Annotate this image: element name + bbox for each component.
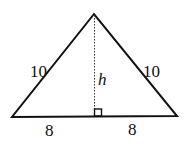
- left-side-label: 10: [30, 62, 47, 81]
- left-base-label: 8: [45, 121, 54, 140]
- right-base-label: 8: [128, 120, 137, 139]
- right-angle-marker: [95, 109, 102, 116]
- right-side-label: 10: [143, 62, 160, 81]
- height-label: h: [98, 70, 107, 89]
- triangle-diagram: 10 10 h 8 8: [0, 0, 190, 150]
